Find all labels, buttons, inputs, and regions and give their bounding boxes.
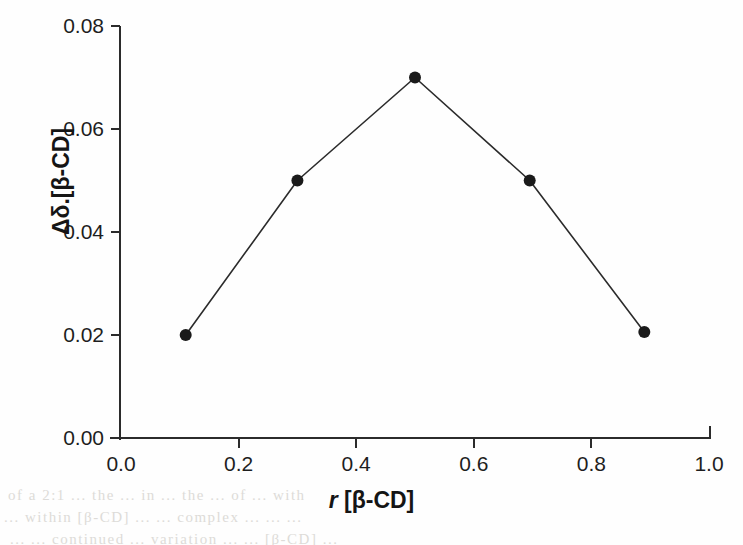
job-plot-figure: of a 2:1 ... the ... in ... the ... of .… <box>0 0 743 545</box>
x-axis-label: r [β-CD] <box>0 487 743 514</box>
data-series-plot <box>0 0 743 545</box>
x-axis-label-variable: r <box>329 487 338 513</box>
series-polyline <box>186 78 645 336</box>
series-marker-group <box>180 72 651 342</box>
data-point-marker <box>638 326 650 338</box>
x-axis-label-rest: [β-CD] <box>338 487 415 513</box>
data-point-marker <box>524 175 536 187</box>
data-point-marker <box>291 175 303 187</box>
y-axis-label: Δδ.[β-CD] <box>48 67 75 297</box>
data-point-marker <box>180 329 192 341</box>
data-point-marker <box>409 72 421 84</box>
